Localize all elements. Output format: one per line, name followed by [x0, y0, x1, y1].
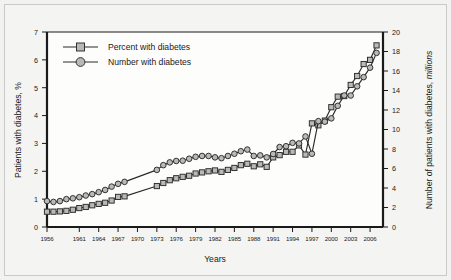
number-marker	[270, 151, 276, 157]
y-axis-right-title: Number of patients with diabetes, millio…	[424, 50, 434, 209]
y-tick-label-left: 2	[34, 167, 38, 176]
number-marker	[277, 144, 283, 150]
y-tick-label-right: 16	[392, 67, 400, 76]
percent-marker	[245, 161, 250, 166]
percent-marker	[348, 82, 353, 87]
chart-canvas: 1956196119641967197019731976197919821985…	[0, 0, 451, 280]
y-tick-label-right: 10	[392, 125, 400, 134]
number-marker	[199, 153, 205, 159]
number-marker	[329, 116, 335, 122]
number-marker	[316, 118, 322, 124]
number-marker	[161, 162, 167, 168]
percent-marker	[225, 167, 230, 172]
number-marker	[154, 167, 160, 173]
number-marker	[245, 147, 251, 153]
percent-marker	[238, 163, 243, 168]
number-marker	[167, 160, 173, 166]
percent-marker	[103, 200, 108, 205]
y-tick-label-left: 1	[34, 195, 38, 204]
number-marker	[257, 153, 263, 159]
y-tick-label-left: 5	[34, 84, 38, 93]
legend-marker-square	[77, 43, 85, 51]
x-tick-label: 1991	[267, 235, 281, 242]
number-marker	[83, 193, 89, 199]
number-marker	[206, 153, 212, 159]
y-tick-label-left: 0	[34, 223, 38, 232]
percent-marker	[180, 174, 185, 179]
percent-marker	[187, 173, 192, 178]
number-marker	[109, 184, 115, 190]
number-marker	[361, 74, 367, 80]
number-marker	[57, 198, 63, 204]
percent-marker	[109, 198, 114, 203]
y-tick-label-left: 3	[34, 139, 38, 148]
percent-marker	[329, 105, 334, 110]
number-marker	[173, 158, 179, 164]
number-marker	[290, 140, 296, 146]
y-axis-left-tick-labels: 01234567	[34, 28, 38, 232]
percent-marker	[290, 149, 295, 154]
number-marker	[309, 151, 315, 157]
x-tick-label: 1973	[150, 235, 164, 242]
y-tick-label-right: 2	[392, 203, 396, 212]
y-tick-label-right: 12	[392, 106, 400, 115]
x-axis-tick-labels: 1956196119641967197019731976197919821985…	[40, 235, 377, 242]
y-axis-right-title-plain: Number of patients with diabetes,	[424, 79, 434, 209]
x-axis-title: Years	[204, 254, 226, 264]
number-marker	[193, 154, 199, 160]
number-marker	[348, 93, 354, 99]
percent-marker	[219, 169, 224, 174]
x-tick-label: 1961	[73, 235, 87, 242]
y-tick-label-right: 20	[392, 28, 400, 37]
y-tick-label-left: 4	[34, 111, 38, 120]
number-marker	[238, 148, 244, 154]
number-marker	[51, 199, 57, 205]
percent-marker	[374, 43, 379, 48]
number-marker	[251, 153, 257, 159]
number-marker	[283, 143, 289, 149]
number-marker	[89, 191, 95, 197]
number-marker	[335, 103, 341, 109]
x-tick-label: 1994	[286, 235, 300, 242]
percent-marker	[77, 205, 82, 210]
number-marker	[180, 158, 186, 164]
x-tick-label: 1979	[189, 235, 203, 242]
number-marker	[102, 187, 108, 193]
legend-label-percent: Percent with diabetes	[108, 42, 190, 52]
x-tick-label: 1956	[40, 235, 54, 242]
number-marker	[64, 196, 70, 202]
percent-marker	[212, 168, 217, 173]
percent-marker	[174, 176, 179, 181]
percent-marker	[167, 178, 172, 183]
number-marker	[264, 155, 270, 161]
percent-marker	[355, 73, 360, 78]
x-tick-label: 1988	[247, 235, 261, 242]
percent-marker	[258, 162, 263, 167]
number-marker	[341, 93, 347, 99]
percent-marker	[161, 180, 166, 185]
y-tick-label-right: 14	[392, 86, 400, 95]
number-marker	[122, 179, 128, 185]
percent-marker	[232, 165, 237, 170]
percent-marker	[206, 169, 211, 174]
percent-marker	[309, 121, 314, 126]
number-marker	[322, 119, 328, 125]
percent-marker	[83, 204, 88, 209]
percent-marker	[251, 164, 256, 169]
number-marker	[367, 65, 373, 71]
number-marker	[374, 50, 380, 56]
number-marker	[77, 194, 83, 200]
percent-marker	[64, 208, 69, 213]
number-marker	[232, 151, 238, 157]
percent-marker	[193, 171, 198, 176]
y-axis-right-title-italic: millions	[424, 50, 434, 79]
percent-marker	[154, 183, 159, 188]
y-tick-label-right: 6	[392, 164, 396, 173]
percent-marker	[122, 194, 127, 199]
x-tick-label: 1982	[208, 235, 222, 242]
percent-marker	[90, 203, 95, 208]
x-tick-label: 2003	[344, 235, 358, 242]
chart-figure: 1956196119641967197019731976197919821985…	[0, 0, 451, 280]
percent-marker	[70, 207, 75, 212]
percent-marker	[335, 94, 340, 99]
